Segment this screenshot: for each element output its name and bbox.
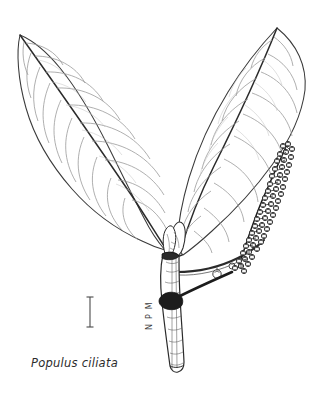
- right-leaf-outline: [177, 28, 305, 255]
- woody-stem-outline: [161, 252, 184, 372]
- stem-node-scar: [159, 292, 183, 309]
- illustration-canvas: [0, 0, 331, 404]
- scale-bar: [87, 297, 94, 327]
- branch-stub: [180, 272, 232, 296]
- species-caption: Populus ciliata: [31, 356, 118, 370]
- botanical-plate: Populus ciliata N P M: [0, 0, 331, 404]
- woody-stem: [159, 252, 184, 372]
- left-leaf: [18, 35, 172, 257]
- artist-signature: N P M: [145, 301, 154, 330]
